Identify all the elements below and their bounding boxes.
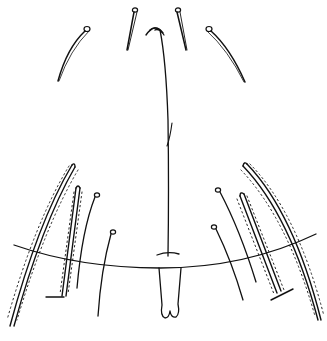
median-process — [157, 253, 181, 318]
right-lateral-setae — [211, 188, 256, 300]
left-lateral-setae — [77, 193, 116, 316]
upper-setae-pair-outer — [58, 27, 245, 83]
median-ridge-line — [160, 30, 172, 256]
setae-illustration — [0, 0, 327, 341]
spinose-setae — [7, 163, 324, 326]
figure-canvas — [0, 0, 327, 341]
